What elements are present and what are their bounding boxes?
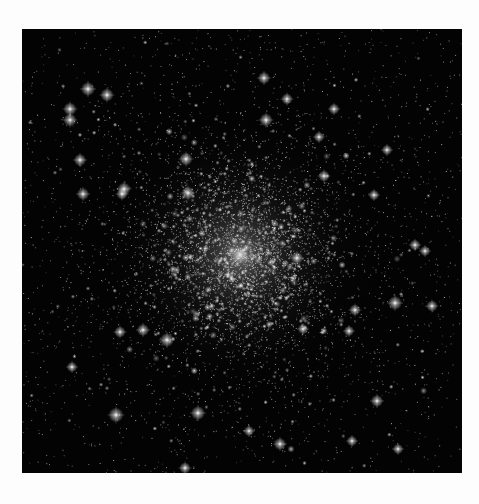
- page-background: [0, 0, 479, 504]
- cluster-photo: [22, 29, 462, 473]
- star-field-canvas: [22, 29, 462, 473]
